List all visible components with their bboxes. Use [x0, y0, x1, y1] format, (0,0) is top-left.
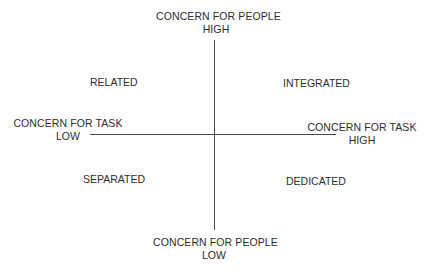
- vertical-axis-line: [214, 40, 215, 230]
- axis-label-people-high-level: HIGH: [156, 23, 276, 36]
- quadrant-integrated: INTEGRATED: [283, 77, 350, 90]
- axis-label-people-low-name: CONCERN FOR PEOPLE: [153, 236, 275, 249]
- quadrant-dedicated: DEDICATED: [286, 175, 346, 188]
- quadrant-separated: SEPARATED: [83, 173, 145, 186]
- axis-label-people-low: CONCERN FOR PEOPLE LOW: [153, 236, 275, 262]
- quadrant-diagram: CONCERN FOR PEOPLE HIGH CONCERN FOR PEOP…: [0, 0, 425, 273]
- axis-label-people-low-level: LOW: [153, 249, 275, 262]
- axis-label-task-high-level: HIGH: [304, 134, 420, 147]
- horizontal-axis-line: [90, 134, 336, 135]
- axis-label-task-low-name: CONCERN FOR TASK: [10, 117, 126, 130]
- axis-label-task-high-name: CONCERN FOR TASK: [304, 121, 420, 134]
- axis-label-people-high-name: CONCERN FOR PEOPLE: [156, 10, 276, 23]
- axis-label-task-low: CONCERN FOR TASK LOW: [10, 117, 126, 143]
- axis-label-task-low-level: LOW: [10, 130, 126, 143]
- quadrant-related: RELATED: [90, 76, 138, 89]
- axis-label-people-high: CONCERN FOR PEOPLE HIGH: [156, 10, 276, 36]
- axis-label-task-high: CONCERN FOR TASK HIGH: [304, 121, 420, 147]
